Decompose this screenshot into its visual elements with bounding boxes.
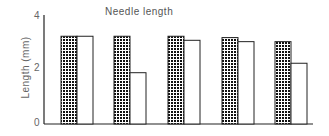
bar-checkered-3	[168, 36, 184, 124]
bar-open-1	[77, 36, 93, 124]
bar-open-2	[130, 73, 146, 124]
y-tick-4: 4	[34, 10, 40, 21]
bar-checkered-4	[222, 38, 238, 124]
bar-open-4	[238, 42, 254, 124]
y-axis-label: Length (mm)	[20, 36, 31, 98]
y-tick-2: 2	[34, 62, 40, 73]
bars-group	[61, 36, 307, 124]
bar-open-5	[291, 63, 307, 124]
bar-checkered-5	[275, 42, 291, 124]
bar-chart: Needle length Length (mm) 4 2 0	[0, 0, 329, 136]
plot-area	[0, 0, 329, 136]
bar-checkered-1	[61, 36, 77, 124]
y-tick-0: 0	[34, 117, 40, 128]
bar-open-3	[184, 40, 200, 124]
chart-title: Needle length	[105, 6, 173, 17]
bar-checkered-2	[114, 36, 130, 124]
